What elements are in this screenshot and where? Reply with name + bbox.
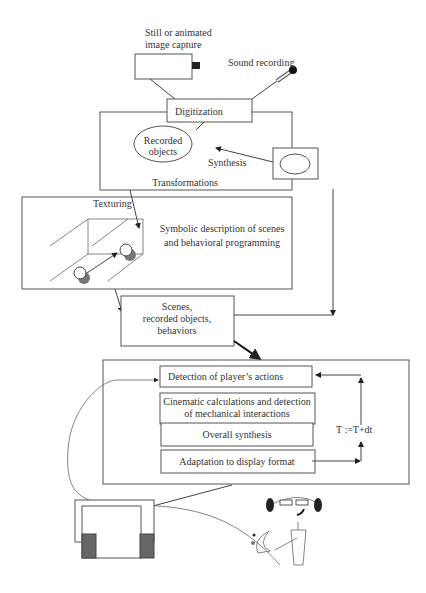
display-icon xyxy=(75,500,154,558)
cinematic-label-1: Cinematic calculations and detection xyxy=(163,396,310,407)
scenes-label-1: Scenes, xyxy=(162,301,192,312)
texturing-label: Texturing xyxy=(93,198,132,209)
game-pipeline-diagram: Still or animated image capture Sound re… xyxy=(0,0,426,593)
scenes-label-3: behaviors xyxy=(158,325,197,336)
symbolic-label-2: and behavioral programming xyxy=(164,237,280,248)
adaptation-label: Adaptation to display format xyxy=(179,456,294,467)
synthesis-label: Synthesis xyxy=(208,157,246,168)
sound-recording-label: Sound recording xyxy=(228,57,294,68)
microphone-icon xyxy=(277,66,297,81)
camera-label-1: Still or animated xyxy=(145,27,212,38)
symbolic-label-1: Symbolic description of scenes xyxy=(160,223,285,234)
time-update-label: T :=T+dt xyxy=(336,424,373,435)
camera-label-2: image capture xyxy=(145,39,202,50)
transformations-label: Transformations xyxy=(152,177,218,188)
camera-icon xyxy=(135,54,200,79)
player-icon xyxy=(251,498,322,566)
recorded-objects-label-1: Recorded xyxy=(144,135,182,146)
cinematic-label-2: of mechanical interactions xyxy=(184,408,290,419)
recorded-objects-label-2: objects xyxy=(149,146,177,157)
overall-synthesis-label: Overall synthesis xyxy=(202,429,271,440)
detect-actions-label: Detection of player’s actions xyxy=(168,371,283,382)
scenes-label-2: recorded objects, xyxy=(143,313,211,324)
digitization-label: Digitization xyxy=(175,106,223,117)
